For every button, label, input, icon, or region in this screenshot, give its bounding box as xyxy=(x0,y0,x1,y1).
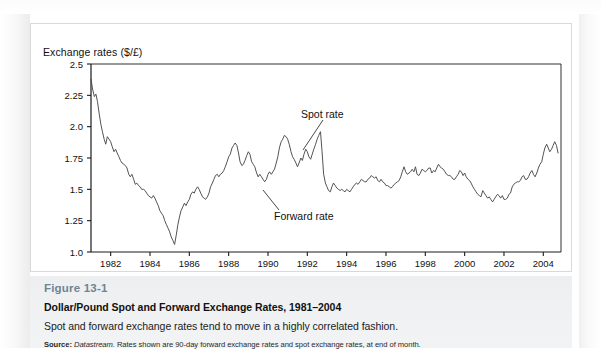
x-tick-label: 1996 xyxy=(375,258,396,269)
figure-source: Source: Datastream. Rates shown are 90-d… xyxy=(44,340,562,349)
annotation-forward-rate: Forward rate xyxy=(274,210,334,222)
source-label: Source: xyxy=(44,340,72,349)
leader-spot-rate xyxy=(303,120,323,150)
figure-description: Spot and forward exchange rates tend to … xyxy=(44,320,562,332)
x-tick-label: 1990 xyxy=(257,258,278,269)
y-tick-label: 1.75 xyxy=(65,153,84,164)
exchange-rate-line-chart: 1.01.251.51.752.02.252.51982198419861988… xyxy=(31,24,573,273)
leader-forward-rate xyxy=(263,190,279,210)
x-tick-label: 1998 xyxy=(415,258,436,269)
y-tick-label: 1.5 xyxy=(70,184,83,195)
annotation-spot-rate: Spot rate xyxy=(301,108,344,120)
x-tick-label: 1982 xyxy=(100,258,121,269)
source-note: Rates shown are 90-day forward exchange … xyxy=(117,340,421,349)
x-tick-label: 1986 xyxy=(179,258,200,269)
chart-panel: Exchange rates ($/£) 1.01.251.51.752.02.… xyxy=(30,23,572,272)
page-edge-top xyxy=(0,0,601,14)
x-tick-label: 1988 xyxy=(218,258,239,269)
x-tick-label: 2002 xyxy=(493,258,514,269)
x-tick-label: 2004 xyxy=(533,258,554,269)
page-edge-right xyxy=(579,0,601,348)
plot-area: 1.01.251.51.752.02.252.51982198419861988… xyxy=(31,24,573,273)
figure-card: Exchange rates ($/£) 1.01.251.51.752.02.… xyxy=(30,14,572,348)
x-tick-label: 1984 xyxy=(139,258,160,269)
source-publication: Datastream. xyxy=(74,340,115,349)
figure-title: Dollar/Pound Spot and Forward Exchange R… xyxy=(44,301,562,313)
x-tick-label: 2000 xyxy=(454,258,475,269)
y-tick-label: 2.25 xyxy=(65,90,84,101)
figure-caption-block: Figure 13-1 Dollar/Pound Spot and Forwar… xyxy=(30,276,572,348)
y-tick-label: 1.0 xyxy=(70,247,83,258)
x-tick-label: 1994 xyxy=(336,258,357,269)
x-tick-label: 1992 xyxy=(297,258,318,269)
figure-number: Figure 13-1 xyxy=(44,282,562,294)
page-edge-left xyxy=(0,0,30,348)
y-tick-label: 1.25 xyxy=(65,215,84,226)
y-tick-label: 2.0 xyxy=(70,121,83,132)
y-tick-label: 2.5 xyxy=(70,59,83,70)
